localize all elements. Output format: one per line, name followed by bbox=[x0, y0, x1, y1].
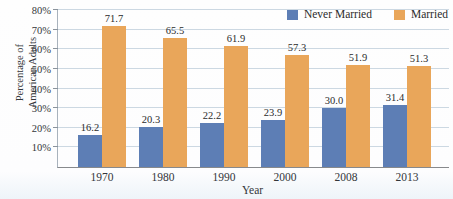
x-tick-label: 2008 bbox=[316, 171, 376, 183]
y-tick-label: 50% bbox=[11, 63, 51, 74]
y-axis-tick bbox=[53, 107, 58, 108]
y-tick-label: 10% bbox=[11, 142, 51, 153]
bar-married-2008 bbox=[346, 65, 370, 167]
bar-married-2000 bbox=[285, 55, 309, 167]
bar-value-label: 71.7 bbox=[84, 13, 144, 24]
x-axis-title: Year bbox=[57, 184, 448, 196]
x-tick-label: 1990 bbox=[194, 171, 254, 183]
y-tick-label: 40% bbox=[11, 83, 51, 94]
y-tick-label: 60% bbox=[11, 44, 51, 55]
bar-never-married-2008 bbox=[322, 108, 346, 167]
x-tick-label: 1980 bbox=[133, 171, 193, 183]
bar-chart-figure: Percentage of American Adults Never Marr… bbox=[0, 0, 453, 199]
bar-value-label: 65.5 bbox=[145, 25, 205, 36]
bar-never-married-2000 bbox=[261, 120, 285, 167]
bar-married-2013 bbox=[407, 66, 431, 167]
x-tick-label: 2013 bbox=[377, 171, 437, 183]
y-axis-tick bbox=[53, 9, 58, 10]
plot-area: 10%20%30%40%50%60%70%80%16.271.7197020.3… bbox=[57, 10, 449, 168]
bar-value-label: 61.9 bbox=[206, 33, 266, 44]
y-axis-tick bbox=[53, 88, 58, 89]
bar-never-married-2013 bbox=[383, 105, 407, 167]
x-tick-label: 2000 bbox=[255, 171, 315, 183]
bar-never-married-1970 bbox=[78, 135, 102, 167]
y-tick-label: 70% bbox=[11, 24, 51, 35]
bar-married-1980 bbox=[163, 38, 187, 167]
bar-never-married-1980 bbox=[139, 127, 163, 167]
y-axis-tick bbox=[53, 127, 58, 128]
y-tick-label: 80% bbox=[11, 5, 51, 16]
bar-value-label: 51.9 bbox=[328, 52, 388, 63]
bar-value-label: 51.3 bbox=[389, 53, 449, 64]
y-axis-tick bbox=[53, 68, 58, 69]
y-axis-tick bbox=[53, 48, 58, 49]
x-tick-label: 1970 bbox=[72, 171, 132, 183]
bar-value-label: 57.3 bbox=[267, 42, 327, 53]
y-axis-tick bbox=[53, 146, 58, 147]
bar-married-1970 bbox=[102, 26, 126, 167]
y-tick-label: 30% bbox=[11, 103, 51, 114]
y-axis-tick bbox=[53, 29, 58, 30]
bar-never-married-1990 bbox=[200, 123, 224, 167]
grid-line bbox=[58, 9, 449, 10]
y-tick-label: 20% bbox=[11, 122, 51, 133]
